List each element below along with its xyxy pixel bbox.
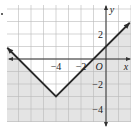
y-axis-down-arrow-icon	[104, 122, 108, 127]
y-tick-label: 2	[98, 29, 103, 40]
y-axis-up-arrow-icon	[104, 5, 108, 10]
y-tick-label: −4	[92, 104, 103, 115]
x-tick-label: −2	[76, 61, 87, 72]
x-axis-label: x	[123, 61, 129, 72]
y-tick-label: −2	[92, 79, 103, 90]
origin-label: O	[95, 61, 102, 72]
inequality-graph: −4−22−2−4Oxy	[0, 0, 131, 130]
x-tick-label: −4	[51, 61, 62, 72]
y-axis-label: y	[109, 4, 115, 15]
